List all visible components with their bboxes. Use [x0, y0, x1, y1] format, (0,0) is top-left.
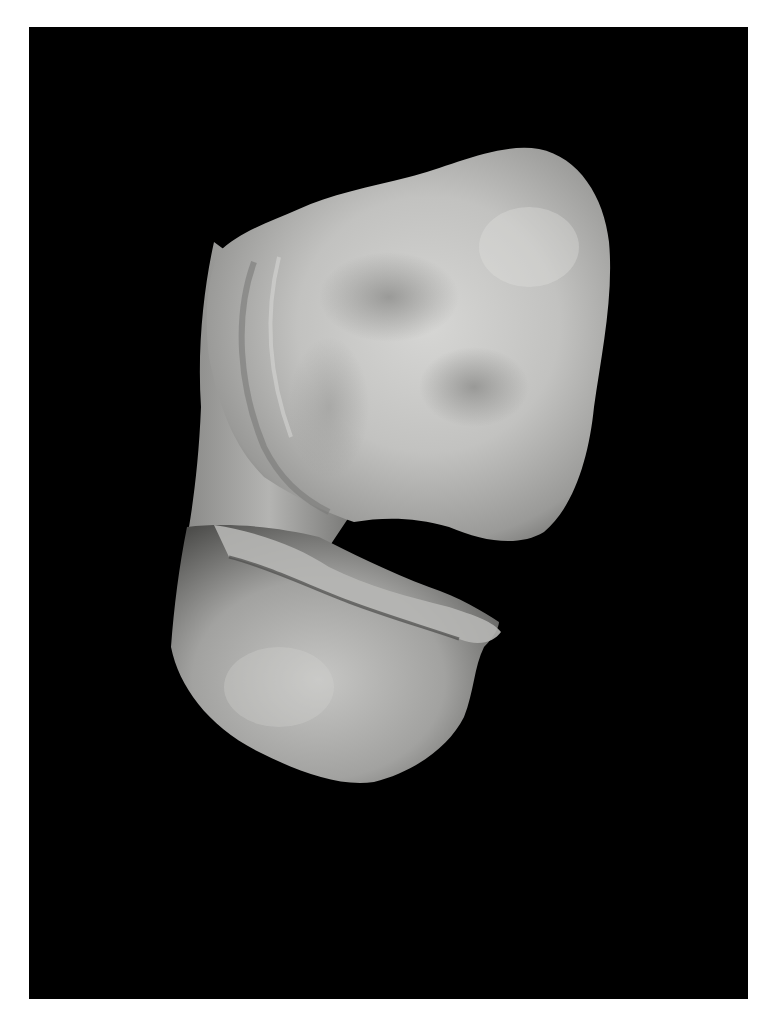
clay-sculpture	[29, 27, 748, 999]
photograph	[29, 27, 748, 999]
